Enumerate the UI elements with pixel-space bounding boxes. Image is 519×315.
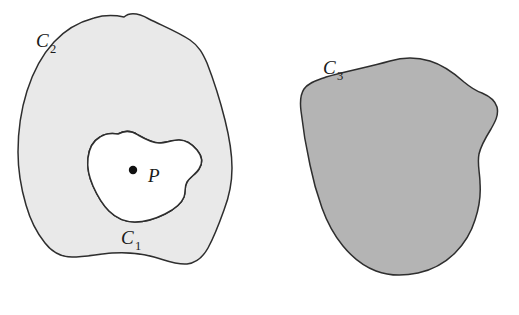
curve-c3-region (300, 58, 497, 275)
curve-c1-label: C (121, 227, 134, 248)
curve-c1-subscript: 1 (135, 239, 141, 253)
point-p-dot (129, 166, 137, 174)
curve-c3-subscript: 3 (337, 69, 343, 83)
topology-regions-diagram: C 2 C 1 P C 3 (0, 0, 519, 315)
figure-container: C 2 C 1 P C 3 (0, 0, 519, 315)
curve-c2-label: C (36, 30, 49, 51)
curve-c2-subscript: 2 (50, 42, 56, 56)
simply-connected-region: C 3 (300, 57, 497, 275)
curve-c3-label: C (323, 57, 336, 78)
point-p-label: P (147, 165, 160, 186)
annulus-region: C 2 C 1 P (18, 14, 232, 264)
